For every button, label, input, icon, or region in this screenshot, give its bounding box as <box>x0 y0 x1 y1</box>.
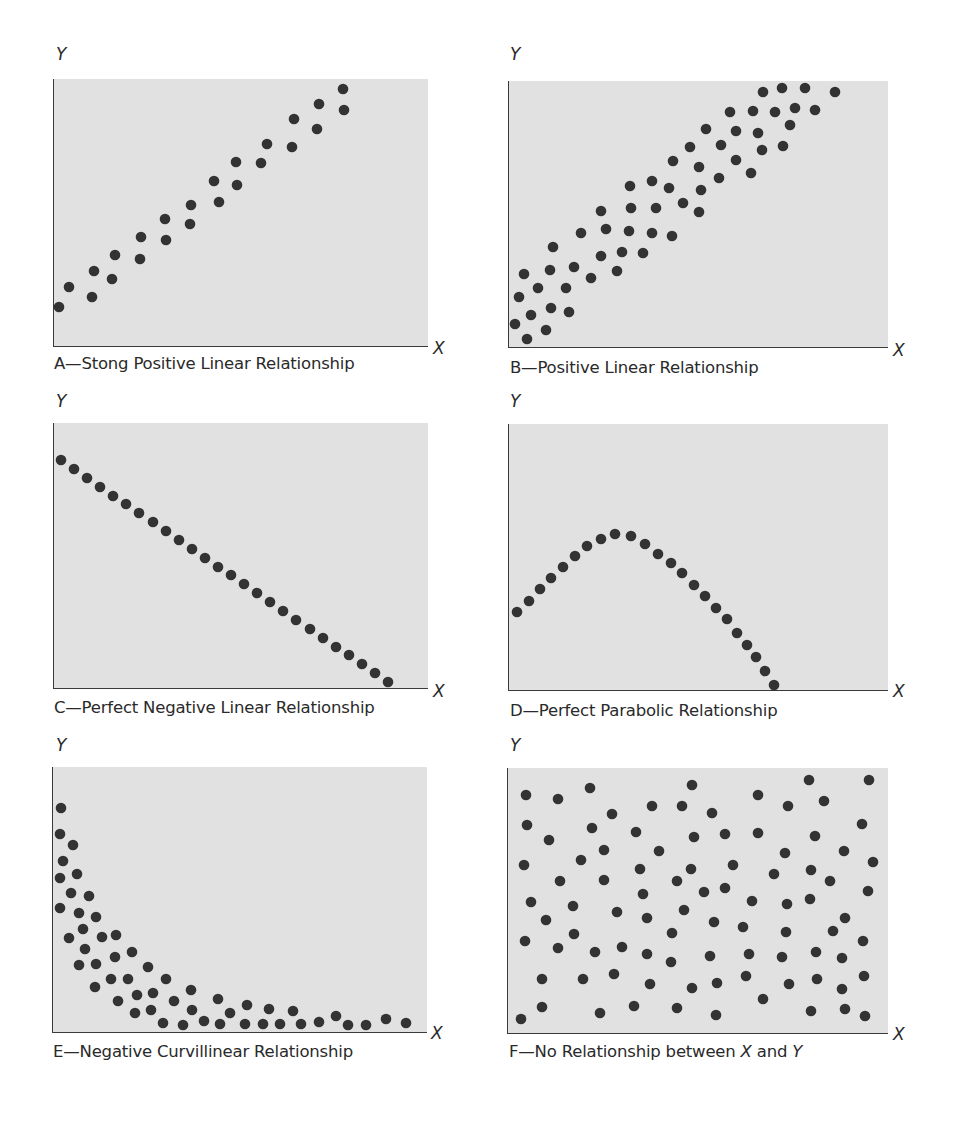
data-point <box>599 845 610 856</box>
x-axis-label: X <box>893 683 905 700</box>
data-point <box>555 876 566 887</box>
data-point <box>89 266 100 277</box>
data-point <box>709 917 720 928</box>
data-point <box>722 614 733 625</box>
data-point <box>607 809 618 820</box>
data-point <box>522 334 533 345</box>
data-point <box>687 983 698 994</box>
data-point <box>647 801 658 812</box>
data-point <box>596 534 607 545</box>
data-point <box>278 606 289 617</box>
data-point <box>69 464 80 475</box>
caption-y-variable: Y <box>792 1042 802 1061</box>
data-point <box>858 936 869 947</box>
data-point <box>685 142 696 153</box>
data-point <box>711 603 722 614</box>
caption-text: and <box>752 1042 793 1061</box>
data-point <box>725 107 736 118</box>
data-point <box>291 615 302 626</box>
data-point <box>863 886 874 897</box>
data-point <box>672 876 683 887</box>
data-point <box>811 947 822 958</box>
data-point <box>782 899 793 910</box>
y-axis-label: Y <box>510 393 520 410</box>
data-point <box>651 203 662 214</box>
data-point <box>55 829 66 840</box>
data-point <box>187 1005 198 1016</box>
data-point <box>696 185 707 196</box>
data-point <box>626 203 637 214</box>
x-axis-label: X <box>433 340 445 357</box>
data-point <box>777 952 788 963</box>
data-point <box>689 580 700 591</box>
data-point <box>642 913 653 924</box>
data-point <box>381 1014 392 1025</box>
data-point <box>728 860 739 871</box>
data-point <box>812 974 823 985</box>
data-point <box>510 319 521 330</box>
data-point <box>344 650 355 661</box>
data-point <box>123 974 134 985</box>
data-point <box>82 473 93 484</box>
data-point <box>731 126 742 137</box>
data-point <box>314 1017 325 1028</box>
data-point <box>519 269 530 280</box>
data-point <box>731 155 742 166</box>
data-point <box>806 1006 817 1017</box>
data-point <box>720 829 731 840</box>
data-point <box>569 929 580 940</box>
data-point <box>640 539 651 550</box>
y-axis-label: Y <box>56 46 66 63</box>
data-point <box>113 996 124 1007</box>
data-point <box>653 549 664 560</box>
data-point <box>714 173 725 184</box>
data-point <box>68 840 79 851</box>
data-point <box>553 943 564 954</box>
data-point <box>541 325 552 336</box>
data-point <box>672 1003 683 1014</box>
data-point <box>56 455 67 466</box>
data-point <box>666 558 677 569</box>
data-point <box>701 124 712 135</box>
data-point <box>262 139 273 150</box>
data-point <box>612 907 623 918</box>
data-point <box>135 254 146 265</box>
data-point <box>548 242 559 253</box>
data-point <box>97 932 108 943</box>
panel-caption: B—Positive Linear Relationship <box>510 360 759 377</box>
data-point <box>314 99 325 110</box>
data-point <box>186 985 197 996</box>
data-point <box>624 226 635 237</box>
data-point <box>199 1016 210 1027</box>
data-point <box>187 544 198 555</box>
data-point <box>711 1010 722 1021</box>
panel-caption: A—Stong Positive Linear Relationship <box>54 356 354 373</box>
data-point <box>161 974 172 985</box>
scatter-plot-area <box>507 768 888 1034</box>
data-point <box>108 491 119 502</box>
data-point <box>758 87 769 98</box>
data-point <box>677 801 688 812</box>
data-point <box>667 928 678 939</box>
data-point <box>520 936 531 947</box>
data-point <box>78 924 89 935</box>
data-point <box>760 666 771 677</box>
data-point <box>830 87 841 98</box>
data-point <box>516 1014 527 1025</box>
data-point <box>596 206 607 217</box>
data-point <box>546 303 557 314</box>
scatter-plot-area <box>508 81 888 348</box>
data-point <box>239 579 250 590</box>
data-point <box>610 529 621 540</box>
data-point <box>148 988 159 999</box>
data-point <box>757 145 768 156</box>
data-point <box>209 176 220 187</box>
data-point <box>617 942 628 953</box>
data-point <box>576 228 587 239</box>
data-point <box>666 957 677 968</box>
data-point <box>783 801 794 812</box>
data-point <box>91 912 102 923</box>
data-point <box>629 1001 640 1012</box>
data-point <box>741 971 752 982</box>
data-point <box>521 790 532 801</box>
